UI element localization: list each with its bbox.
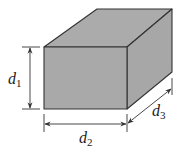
d1-label: d1	[8, 70, 22, 89]
dimension-d1: d1	[8, 47, 40, 109]
d3-label: d3	[152, 102, 166, 121]
box-front-face	[44, 47, 127, 109]
dimension-d2: d2	[44, 114, 127, 148]
cuboid-diagram: d1 d2 d3	[0, 0, 181, 149]
d2-label: d2	[79, 129, 93, 148]
